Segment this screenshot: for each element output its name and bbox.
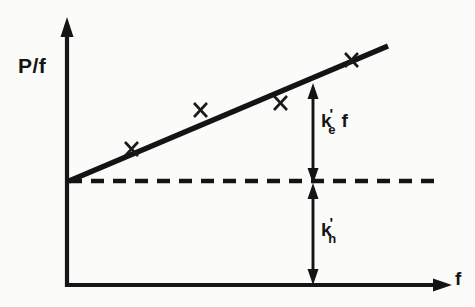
- eddy-current-term-label: k'ef: [321, 107, 348, 134]
- data-point-marker: [194, 103, 207, 117]
- x-axis-arrowhead: [433, 279, 452, 292]
- eddy-current-measure-arrow: [308, 83, 319, 184]
- y-axis-arrowhead: [61, 17, 74, 37]
- hysteresis-symbol-subscript: h: [328, 231, 336, 246]
- figure-canvas: P/f f k'ef k'h: [0, 0, 475, 307]
- measure-arrowhead-up: [308, 183, 319, 199]
- eddy-symbol-subscript: e: [328, 122, 335, 137]
- y-axis-label: P/f: [18, 55, 46, 76]
- hysteresis-symbol-prime: ': [330, 214, 334, 231]
- hysteresis-term-label: k'h: [321, 216, 343, 243]
- data-point-marker: [274, 96, 287, 110]
- plot-svg: [0, 0, 475, 307]
- eddy-symbol-prime: ': [330, 105, 334, 122]
- y-axis: [61, 17, 74, 287]
- x-axis: [66, 279, 452, 292]
- x-axis-label: f: [455, 269, 461, 288]
- hysteresis-measure-arrow: [308, 183, 319, 285]
- measure-arrowhead-down: [308, 269, 319, 285]
- measure-arrowhead-up: [308, 83, 319, 99]
- eddy-symbol-trailing: f: [341, 110, 347, 131]
